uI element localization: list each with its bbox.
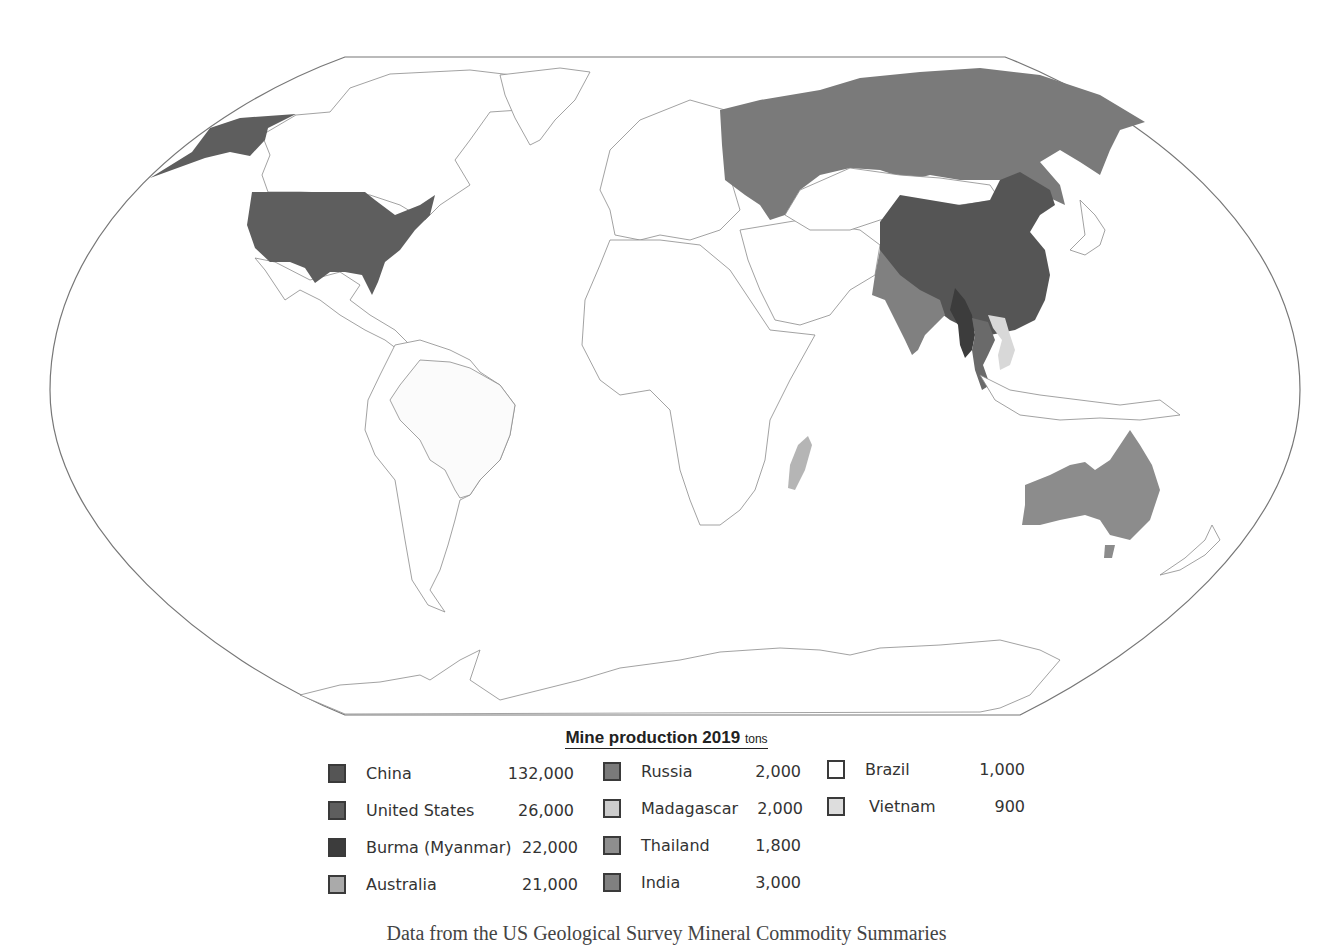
legend-country: United States: [366, 801, 474, 820]
legend-value: 21,000: [522, 875, 578, 894]
legend-value: 3,000: [755, 873, 801, 892]
legend-item-madagascar: Madagascar 2,000: [603, 797, 803, 834]
legend-value: 2,000: [755, 762, 801, 781]
swatch-icon: [827, 797, 845, 816]
legend-country: Burma (Myanmar): [366, 838, 512, 857]
legend-item-burma: Burma (Myanmar) 22,000: [328, 836, 578, 873]
legend-item-thailand: Thailand 1,800: [603, 834, 803, 871]
legend-value: 26,000: [518, 801, 574, 820]
legend-item-brazil: Brazil 1,000: [827, 758, 1027, 795]
legend-title-text: Mine production 2019: [565, 728, 740, 747]
swatch-icon: [328, 801, 346, 820]
legend-unit: tons: [745, 732, 768, 746]
world-map: [0, 0, 1333, 725]
source-caption: Data from the US Geological Survey Miner…: [0, 922, 1333, 945]
legend-column-1: China 132,000 United States 26,000 Burma…: [328, 762, 578, 910]
legend-country: Australia: [366, 875, 437, 894]
legend-value: 1,800: [755, 836, 801, 855]
legend-country: Russia: [641, 762, 692, 781]
legend-country: China: [366, 764, 412, 783]
legend-value: 22,000: [522, 838, 578, 857]
legend-value: 2,000: [757, 799, 803, 818]
legend-country: Madagascar: [641, 799, 738, 818]
legend-item-australia: Australia 21,000: [328, 873, 578, 910]
swatch-icon: [827, 760, 845, 779]
legend-country: Thailand: [641, 836, 710, 855]
legend-title: Mine production 2019 tons: [0, 728, 1333, 748]
legend-value: 900: [994, 797, 1025, 816]
legend-value: 1,000: [979, 760, 1025, 779]
legend: China 132,000 United States 26,000 Burma…: [0, 762, 1333, 902]
legend-item-china: China 132,000: [328, 762, 578, 799]
swatch-icon: [328, 875, 346, 894]
legend-column-3: Brazil 1,000 Vietnam 900: [827, 758, 1027, 832]
legend-item-india: India 3,000: [603, 871, 803, 908]
legend-country: India: [641, 873, 680, 892]
legend-country: Brazil: [865, 760, 910, 779]
swatch-icon: [603, 762, 621, 781]
legend-column-2: Russia 2,000 Madagascar 2,000 Thailand 1…: [603, 760, 803, 908]
swatch-icon: [328, 764, 346, 783]
legend-value: 132,000: [508, 764, 574, 783]
legend-item-russia: Russia 2,000: [603, 760, 803, 797]
swatch-icon: [603, 799, 621, 818]
swatch-icon: [603, 873, 621, 892]
legend-item-united-states: United States 26,000: [328, 799, 578, 836]
swatch-icon: [328, 838, 346, 857]
legend-country: Vietnam: [869, 797, 936, 816]
swatch-icon: [603, 836, 621, 855]
legend-item-vietnam: Vietnam 900: [827, 795, 1027, 832]
